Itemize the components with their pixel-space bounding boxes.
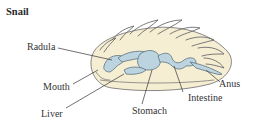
label-stomach: Stomach xyxy=(132,106,167,116)
label-anus: Anus xyxy=(219,79,240,89)
leader-mouth xyxy=(73,70,98,84)
label-intestine: Intestine xyxy=(188,93,222,103)
label-radula: Radula xyxy=(27,42,55,52)
snail-diagram xyxy=(0,0,261,125)
label-mouth: Mouth xyxy=(43,82,70,92)
label-liver: Liver xyxy=(41,109,63,119)
leader-liver xyxy=(66,74,124,108)
